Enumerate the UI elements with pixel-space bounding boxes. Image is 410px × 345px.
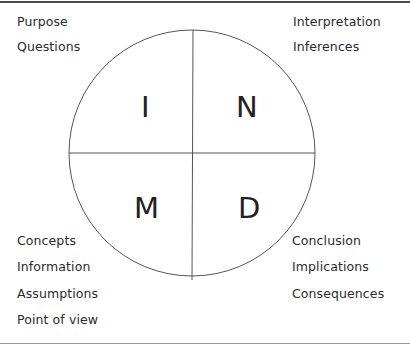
label-implications: Implications [292, 260, 369, 274]
label-questions: Questions [17, 40, 80, 54]
quadrant-letter-bottom-right: D [238, 193, 260, 223]
quadrant-letter-top-right: N [236, 92, 258, 122]
vertical-divider [192, 30, 193, 280]
label-interpretation: Interpretation [293, 15, 381, 29]
label-information: Information [17, 260, 90, 274]
label-purpose: Purpose [17, 15, 68, 29]
label-conclusion: Conclusion [292, 234, 361, 248]
label-consequences: Consequences [292, 287, 384, 301]
quadrant-letter-bottom-left: M [134, 193, 159, 223]
quadrant-letter-top-left: I [141, 92, 150, 122]
label-inferences: Inferences [293, 40, 359, 54]
label-concepts: Concepts [17, 234, 76, 248]
label-assumptions: Assumptions [17, 287, 98, 301]
label-point-of-view: Point of view [17, 313, 98, 327]
bottom-border [0, 343, 410, 344]
